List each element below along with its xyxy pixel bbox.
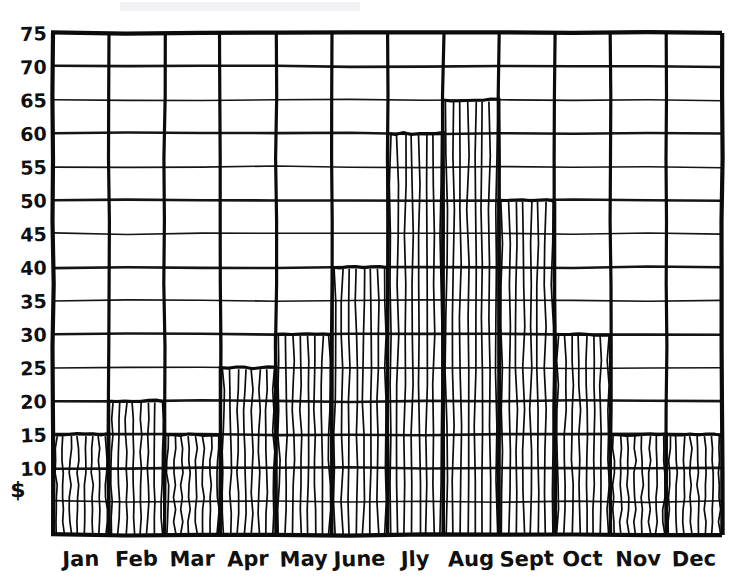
y-tick-label-60: 60 xyxy=(20,122,47,145)
y-tick-label-65: 65 xyxy=(20,89,47,112)
x-tick-label-dec: Dec xyxy=(672,546,717,571)
bar-nov xyxy=(610,434,666,535)
x-tick-label-mar: Mar xyxy=(169,546,216,571)
y-tick-label-15: 15 xyxy=(20,424,47,447)
bar-dec xyxy=(666,434,722,535)
y-tick-label-75: 75 xyxy=(20,22,47,45)
y-tick-labels-group: 7570656055504540353025201510 xyxy=(20,22,47,480)
scan-smudge xyxy=(120,2,360,11)
x-tick-label-june: June xyxy=(331,546,386,571)
y-tick-label-70: 70 xyxy=(20,55,47,78)
x-tick-label-may: May xyxy=(279,546,328,571)
y-tick-label-40: 40 xyxy=(20,256,47,279)
currency-symbol: $ xyxy=(10,477,25,502)
y-tick-label-50: 50 xyxy=(20,189,47,212)
x-tick-label-jan: Jan xyxy=(60,547,100,572)
x-tick-labels-group: JanFebMarAprMayJuneJlyAugSeptOctNovDec xyxy=(60,546,716,571)
x-tick-label-aug: Aug xyxy=(448,546,495,571)
bar-apr xyxy=(220,367,276,535)
y-tick-label-30: 30 xyxy=(20,323,47,346)
y-tick-label-20: 20 xyxy=(20,390,47,413)
bar-mar xyxy=(165,434,221,535)
x-tick-label-sept: Sept xyxy=(499,546,554,571)
x-tick-label-feb: Feb xyxy=(115,546,158,571)
x-tick-label-apr: Apr xyxy=(227,546,270,571)
y-tick-label-45: 45 xyxy=(20,223,47,246)
x-tick-label-jly: Jly xyxy=(399,547,431,572)
y-tick-label-25: 25 xyxy=(20,357,47,380)
chart-canvas: 7570656055504540353025201510 JanFebMarAp… xyxy=(0,0,734,581)
y-tick-label-55: 55 xyxy=(20,156,47,179)
y-tick-label-35: 35 xyxy=(20,290,47,313)
bar-jan xyxy=(53,434,109,535)
x-tick-label-nov: Nov xyxy=(615,546,662,571)
bars-group xyxy=(53,99,723,535)
x-tick-label-oct: Oct xyxy=(562,546,603,571)
hand-drawn-bar-chart: 7570656055504540353025201510 JanFebMarAp… xyxy=(0,0,734,581)
